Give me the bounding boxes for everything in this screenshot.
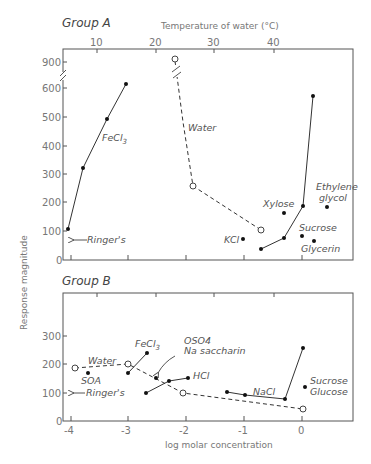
y-axis-label: Response magnitude: [19, 235, 29, 330]
svg-text:300: 300: [42, 169, 61, 180]
group-b-title: Group B: [62, 274, 111, 288]
svg-text:HCl: HCl: [193, 370, 210, 381]
svg-text:10: 10: [90, 37, 103, 48]
svg-text:0: 0: [298, 425, 304, 436]
group-b-fecl3-series: FeCl3: [126, 338, 160, 375]
svg-text:-3: -3: [121, 425, 131, 436]
svg-text:Glucose: Glucose: [310, 386, 348, 397]
water-label-a: Water: [188, 122, 217, 133]
ethylene-label: Ethylene: [316, 181, 358, 192]
group-b-soa-point: SOA: [81, 371, 101, 386]
water-label-b: Water: [88, 355, 117, 366]
kcl-label: KCl: [224, 234, 240, 245]
svg-text:400: 400: [42, 141, 61, 152]
svg-text:100: 100: [42, 226, 61, 237]
svg-text:0: 0: [56, 255, 62, 266]
svg-text:900: 900: [42, 57, 61, 68]
svg-text:40: 40: [267, 37, 280, 48]
group-b-panel: Group B 300 200 100 0 -4 -3: [42, 274, 353, 450]
glycerin-label: Glycerin: [301, 243, 340, 254]
svg-text:-2: -2: [179, 425, 189, 436]
group-a-isolated-points: KCl Xylose Ethylene glycol Sucrose Glyce…: [224, 181, 358, 254]
group-b-top-ticks: [97, 293, 274, 297]
group-a-fecl3-series: FeCl3: [66, 82, 128, 231]
svg-text:NaCl: NaCl: [253, 386, 276, 397]
group-a-ringers-marker: Ringer's: [73, 234, 126, 245]
svg-text:Ringer's: Ringer's: [87, 234, 126, 245]
svg-text:Ringer's: Ringer's: [86, 387, 125, 398]
glycol-label: glycol: [319, 192, 347, 203]
svg-text:500: 500: [42, 112, 61, 123]
sucrose-label-a: Sucrose: [299, 222, 337, 233]
group-b-x-ticks: -4 -3 -2 -1 0: [64, 416, 304, 436]
group-a-water-series: Water: [172, 56, 264, 233]
x-axis-label: log molar concentration: [165, 440, 273, 450]
svg-text:30: 30: [207, 37, 220, 48]
group-b-hcl-series: HCl: [144, 370, 210, 395]
svg-text:100: 100: [42, 388, 61, 399]
svg-text:-1: -1: [238, 425, 248, 436]
svg-text:Na saccharin: Na saccharin: [184, 345, 246, 356]
group-a-x-ticks: [71, 255, 302, 260]
svg-text:0: 0: [56, 416, 62, 427]
svg-text:Sucrose: Sucrose: [310, 375, 348, 386]
fecl3-label-b: FeCl3: [135, 338, 160, 352]
group-b-water-series: Water: [72, 355, 306, 412]
svg-text:SOA: SOA: [81, 375, 101, 386]
svg-text:20: 20: [149, 37, 162, 48]
svg-text:200: 200: [42, 359, 61, 370]
temperature-ticks: 10 20 30 40: [90, 37, 280, 53]
svg-text:300: 300: [42, 331, 61, 342]
group-a-title: Group A: [62, 16, 111, 30]
svg-text:-4: -4: [64, 425, 74, 436]
svg-text:600: 600: [42, 83, 61, 94]
svg-text:200: 200: [42, 197, 61, 208]
group-b-ringers-marker: Ringer's: [73, 387, 125, 398]
chart-figure: Group A Temperature of water (°C) 10 20 …: [0, 0, 371, 464]
fecl3-label: FeCl3: [102, 132, 127, 146]
group-b-sucrose-glucose-point: Sucrose Glucose: [303, 375, 348, 397]
group-a-panel: Group A Temperature of water (°C) 10 20 …: [42, 16, 358, 266]
xylose-label: Xylose: [262, 198, 295, 209]
temperature-axis-label: Temperature of water (°C): [160, 21, 279, 31]
